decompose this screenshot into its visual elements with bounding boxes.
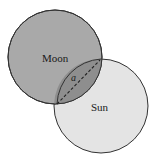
chord-label: a (71, 72, 76, 83)
sun-label: Sun (91, 101, 109, 113)
moon-label: Moon (42, 52, 69, 64)
eclipse-diagram: Moon Sun a (0, 0, 155, 163)
